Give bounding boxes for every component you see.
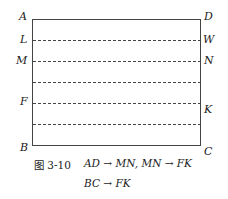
label-w: W [203, 34, 214, 46]
label-l: L [20, 34, 27, 46]
label-f: F [20, 96, 28, 108]
dashed-lines [33, 41, 200, 125]
label-a: A [19, 11, 27, 23]
caption-line-2: BC → FK [84, 177, 131, 189]
label-n: N [204, 55, 214, 67]
label-k: K [204, 104, 212, 116]
caption-number: 图 3-10 [34, 157, 71, 172]
caption-line-1: AD → MN, MN → FK [84, 157, 192, 169]
label-m: M [16, 55, 27, 67]
label-c: C [204, 146, 212, 158]
label-b: B [20, 142, 28, 154]
label-d: D [204, 11, 213, 23]
